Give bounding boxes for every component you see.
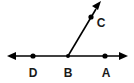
left-arrowhead-icon (7, 52, 16, 60)
point-a-dot (102, 53, 107, 58)
ray-arrowhead-icon (92, 1, 101, 10)
geometry-canvas: D B A C (0, 0, 134, 83)
point-a-label: A (102, 66, 111, 80)
point-b-dot (66, 54, 70, 58)
point-c-dot (88, 14, 93, 19)
geometry-figure: D B A C (0, 0, 134, 83)
point-b-label: B (64, 66, 73, 80)
right-arrowhead-icon (119, 52, 128, 60)
point-c-label: C (97, 16, 106, 30)
point-d-dot (30, 53, 35, 58)
point-d-label: D (29, 66, 38, 80)
